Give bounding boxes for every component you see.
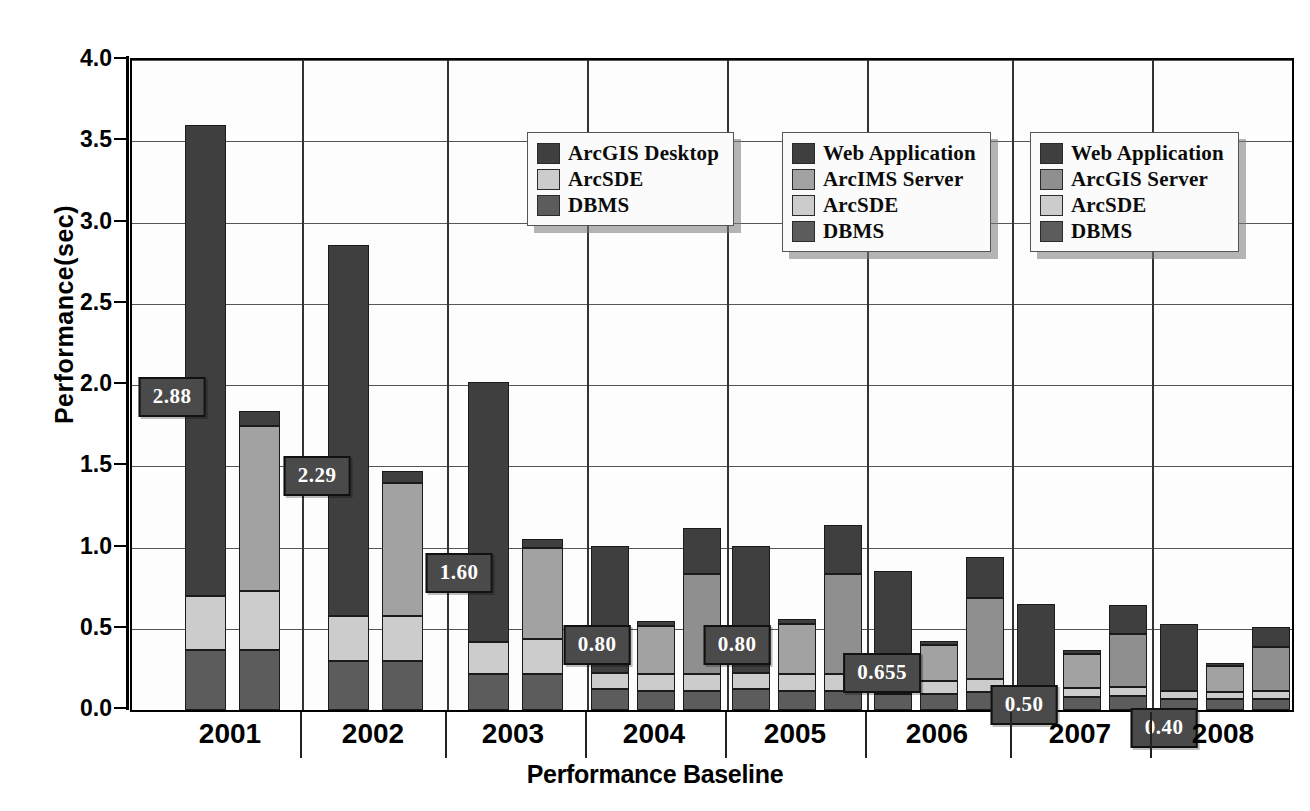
bar-segment-web-application[interactable] — [1252, 627, 1290, 647]
gridline-horizontal — [132, 304, 1292, 305]
y-axis-tick-mark — [114, 463, 126, 465]
bar-segment-arcsde[interactable] — [637, 674, 675, 690]
bar-2008-arcgis-desktop-stack[interactable] — [1160, 624, 1198, 710]
bar-segment-arcgis-desktop[interactable] — [1017, 604, 1055, 687]
legend-entry: ArcGIS Server — [1040, 166, 1224, 192]
legend-label: ArcIMS Server — [823, 167, 963, 192]
y-axis-tick-mark — [114, 301, 126, 303]
bar-segment-dbms[interactable] — [185, 650, 226, 710]
bar-segment-arcims-server[interactable] — [778, 624, 816, 674]
bar-segment-dbms[interactable] — [239, 650, 280, 710]
bar-segment-web-application[interactable] — [824, 525, 862, 574]
bar-segment-arcsde[interactable] — [1252, 691, 1290, 698]
bar-segment-dbms[interactable] — [328, 661, 369, 710]
bar-2002-arcims-stack[interactable] — [382, 471, 423, 710]
bar-2007-arcims-stack[interactable] — [1063, 650, 1101, 710]
bar-2006-arcims-stack[interactable] — [920, 641, 958, 710]
bar-segment-dbms[interactable] — [920, 694, 958, 710]
bar-segment-web-application[interactable] — [966, 557, 1004, 598]
bar-segment-arcsde[interactable] — [468, 642, 509, 675]
bar-2001-arcims-stack[interactable] — [239, 411, 280, 710]
value-callout-2004: 0.80 — [564, 625, 631, 665]
bar-2001-arcgis-desktop-stack[interactable] — [185, 125, 226, 710]
bar-segment-arcsde[interactable] — [778, 674, 816, 690]
bar-segment-web-application[interactable] — [778, 619, 816, 624]
bar-segment-dbms[interactable] — [732, 689, 770, 710]
bar-segment-web-application[interactable] — [1063, 650, 1101, 654]
bar-segment-arcsde[interactable] — [920, 681, 958, 694]
bar-segment-web-application[interactable] — [1206, 663, 1244, 666]
bar-segment-web-application[interactable] — [382, 471, 423, 482]
bar-2004-arcims-stack[interactable] — [637, 621, 675, 710]
bar-segment-web-application[interactable] — [1109, 605, 1147, 633]
bar-segment-arcims-server[interactable] — [382, 483, 423, 616]
bar-segment-arcims-server[interactable] — [522, 548, 563, 639]
bar-segment-arcsde[interactable] — [239, 591, 280, 650]
bar-segment-arcsde[interactable] — [591, 673, 629, 689]
bar-segment-arcgis-desktop[interactable] — [468, 382, 509, 642]
legend-entry: DBMS — [1040, 218, 1224, 244]
bar-segment-arcgis-server[interactable] — [1252, 647, 1290, 691]
bar-segment-dbms[interactable] — [824, 691, 862, 711]
bar-segment-web-application[interactable] — [683, 528, 721, 574]
bar-2008-arcgis-server-stack[interactable] — [1252, 627, 1290, 710]
bar-segment-arcims-server[interactable] — [1206, 666, 1244, 692]
x-axis-tick-label: 2005 — [764, 718, 826, 750]
bar-segment-arcims-server[interactable] — [1063, 654, 1101, 688]
bar-segment-arcims-server[interactable] — [637, 626, 675, 675]
legend-swatch-icon — [1040, 143, 1063, 164]
bar-segment-arcsde[interactable] — [732, 673, 770, 689]
bar-segment-dbms[interactable] — [591, 689, 629, 710]
bar-segment-dbms[interactable] — [778, 691, 816, 711]
x-axis-separator — [1010, 712, 1012, 758]
bar-segment-arcsde[interactable] — [1063, 688, 1101, 697]
value-callout-2005: 0.80 — [704, 625, 771, 665]
bar-segment-arcsde[interactable] — [683, 674, 721, 690]
bar-segment-arcsde[interactable] — [522, 639, 563, 675]
bar-2008-arcims-stack[interactable] — [1206, 663, 1244, 710]
bar-2003-arcgis-desktop-stack[interactable] — [468, 382, 509, 710]
bar-segment-arcsde[interactable] — [1160, 691, 1198, 698]
x-axis-separator — [725, 712, 727, 758]
legend-label: DBMS — [568, 193, 629, 218]
bar-segment-web-application[interactable] — [920, 641, 958, 645]
bar-segment-dbms[interactable] — [1206, 699, 1244, 710]
bar-segment-arcgis-server[interactable] — [966, 598, 1004, 679]
bar-segment-dbms[interactable] — [1252, 699, 1290, 710]
bar-segment-arcgis-desktop[interactable] — [185, 125, 226, 596]
bar-segment-arcgis-desktop[interactable] — [328, 245, 369, 616]
bar-2005-arcims-stack[interactable] — [778, 619, 816, 710]
legend-entry: Web Application — [1040, 140, 1224, 166]
bar-2003-arcims-stack[interactable] — [522, 539, 563, 710]
bar-segment-dbms[interactable] — [522, 674, 563, 710]
legend-label: DBMS — [823, 219, 884, 244]
bar-segment-dbms[interactable] — [1063, 697, 1101, 710]
legend-label: ArcSDE — [1071, 193, 1146, 218]
bar-segment-dbms[interactable] — [874, 694, 912, 710]
bar-segment-web-application[interactable] — [522, 539, 563, 547]
bar-segment-arcsde[interactable] — [1206, 692, 1244, 699]
gridline-vertical — [447, 60, 449, 710]
bar-segment-arcsde[interactable] — [382, 616, 423, 662]
bar-segment-arcgis-desktop[interactable] — [1160, 624, 1198, 691]
bar-segment-web-application[interactable] — [239, 411, 280, 426]
bar-segment-arcsde[interactable] — [328, 616, 369, 662]
bar-segment-web-application[interactable] — [637, 621, 675, 626]
bar-segment-dbms[interactable] — [637, 691, 675, 711]
value-callout-2002: 2.29 — [284, 456, 351, 496]
bar-segment-arcims-server[interactable] — [920, 645, 958, 681]
legend-swatch-icon — [792, 143, 815, 164]
y-axis-tick-mark — [114, 707, 126, 709]
legend-swatch-icon — [1040, 169, 1063, 190]
bar-segment-arcsde[interactable] — [185, 596, 226, 650]
bar-2007-arcgis-server-stack[interactable] — [1109, 605, 1147, 710]
bar-segment-dbms[interactable] — [683, 691, 721, 711]
bar-segment-dbms[interactable] — [468, 674, 509, 710]
bar-2004-arcgis-server-stack[interactable] — [683, 528, 721, 710]
bar-segment-dbms[interactable] — [382, 661, 423, 710]
bar-segment-arcgis-server[interactable] — [1109, 634, 1147, 688]
bar-segment-arcims-server[interactable] — [239, 426, 280, 592]
y-axis-tick-mark — [114, 626, 126, 628]
bar-segment-arcsde[interactable] — [1109, 687, 1147, 696]
y-axis-tick-label: 1.0 — [80, 532, 112, 559]
